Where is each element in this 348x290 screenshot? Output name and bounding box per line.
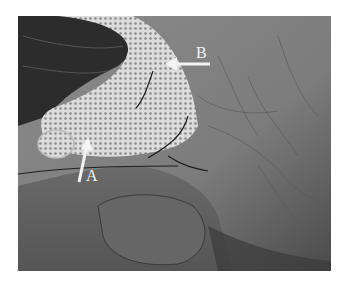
mesh-fold	[38, 130, 74, 158]
photo-illustration	[18, 16, 331, 271]
surgical-photo	[18, 16, 331, 271]
label-b: B	[196, 45, 207, 61]
label-a: A	[86, 168, 98, 184]
